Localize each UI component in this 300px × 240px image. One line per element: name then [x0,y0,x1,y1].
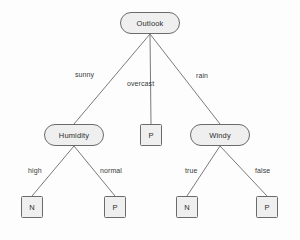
edge-outlook-to-leaf-overcast [150,34,151,124]
node-humidity[interactable] [44,124,104,146]
edge-humidity-to-leaf-high [32,146,74,196]
node-leaf-overcast[interactable] [140,124,162,146]
node-outlook[interactable] [120,12,180,34]
tree-graphics-layer [0,0,300,240]
node-leaf-normal[interactable] [104,196,126,218]
edge-windy-to-leaf-true [187,146,220,196]
edge-group-humidity [32,146,115,196]
edge-group-root [74,34,220,124]
node-windy[interactable] [190,124,250,146]
node-leaf-false[interactable] [256,196,278,218]
edge-group-windy [187,146,267,196]
edge-outlook-to-windy [150,34,220,124]
decision-tree-diagram: Outlook Humidity Windy P N P N P sunny o… [0,0,300,240]
edge-outlook-to-humidity [74,34,150,124]
edge-humidity-to-leaf-normal [74,146,115,196]
edge-windy-to-leaf-false [220,146,267,196]
node-leaf-true[interactable] [176,196,198,218]
node-leaf-high[interactable] [21,196,43,218]
